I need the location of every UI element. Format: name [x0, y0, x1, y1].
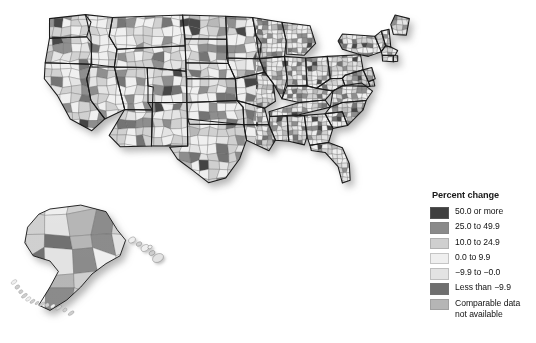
legend-item-label: 10.0 to 24.9 [455, 237, 500, 249]
legend-item-label: Comparable data not available [455, 298, 520, 320]
legend-item: −9.9 to −0.0 [430, 267, 534, 280]
legend-item: 0.0 to 9.9 [430, 252, 534, 265]
legend-item-label: 25.0 to 49.9 [455, 221, 500, 233]
legend-item: 25.0 to 49.9 [430, 221, 534, 234]
legend-swatch-0-to-9 [430, 253, 449, 265]
legend-item-label: −9.9 to −0.0 [455, 267, 500, 279]
legend-item-label: 0.0 to 9.9 [455, 252, 490, 264]
legend-swatch-not-available [430, 299, 449, 311]
legend-item: Less than −9.9 [430, 282, 534, 295]
legend-item: 50.0 or more [430, 206, 534, 219]
legend-title: Percent change [432, 190, 534, 200]
map-legend: Percent change 50.0 or more25.0 to 49.91… [430, 190, 534, 322]
legend-swatch-25-to-49 [430, 222, 449, 234]
legend-swatch-10-to-24 [430, 238, 449, 250]
legend-swatch-neg9-to-neg0 [430, 268, 449, 280]
choropleth-figure: Percent change 50.0 or more25.0 to 49.91… [0, 0, 536, 343]
legend-item-list: 50.0 or more25.0 to 49.910.0 to 24.90.0 … [430, 206, 534, 320]
legend-swatch-50-or-more [430, 207, 449, 219]
legend-item-label: 50.0 or more [455, 206, 503, 218]
legend-item: 10.0 to 24.9 [430, 237, 534, 250]
legend-swatch-less-than-neg9 [430, 283, 449, 295]
legend-item-label: Less than −9.9 [455, 282, 511, 294]
legend-item: Comparable data not available [430, 298, 534, 320]
